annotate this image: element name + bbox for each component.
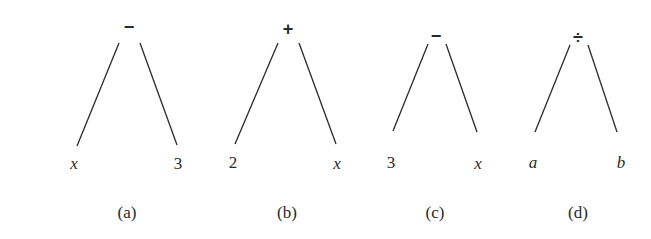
tree-c-left-edge [393, 44, 428, 131]
tree-b-left-leaf: 2 [229, 154, 238, 171]
tree-a-caption: (a) [118, 204, 137, 221]
tree-d-caption: (d) [568, 204, 588, 221]
tree-d-left-leaf: a [529, 154, 538, 171]
tree-d-left-edge [535, 45, 570, 132]
tree-a-operator: − [124, 18, 135, 36]
tree-a-right-edge [140, 43, 177, 145]
tree-a-left-leaf: x [70, 155, 78, 172]
tree-b-caption: (b) [277, 204, 297, 221]
tree-c-caption: (c) [426, 204, 445, 221]
tree-a-right-leaf: 3 [174, 155, 183, 172]
tree-c-right-leaf: x [474, 155, 482, 172]
tree-d-right-leaf: b [617, 154, 626, 171]
tree-b-right-edge [299, 43, 336, 144]
tree-c-left-leaf: 3 [387, 154, 396, 171]
tree-c-right-edge [446, 44, 477, 132]
tree-d-right-edge [588, 45, 617, 132]
tree-b-operator: + [283, 20, 294, 38]
tree-b-left-edge [235, 43, 278, 144]
tree-d-operator: ÷ [573, 29, 583, 47]
tree-a-left-edge [77, 43, 119, 146]
tree-b-right-leaf: x [333, 155, 341, 172]
tree-c-operator: − [431, 27, 442, 45]
expression-trees-edges [0, 0, 651, 239]
